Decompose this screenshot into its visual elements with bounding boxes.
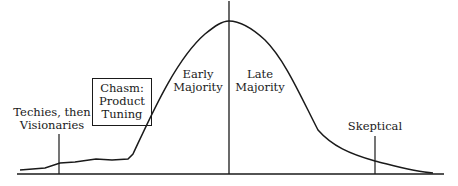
late-majority-label-line-2: Majority: [232, 81, 288, 94]
early-majority-label: Early Majority: [170, 68, 226, 94]
skeptical-label: Skeptical: [345, 120, 405, 133]
skeptical-label-line-1: Skeptical: [345, 120, 405, 133]
early-majority-label-line-2: Majority: [170, 81, 226, 94]
techies-label-line-2: Visionaries: [4, 119, 100, 132]
techies-label: Techies, then Visionaries: [4, 106, 100, 132]
chasm-label-line-3: Tuning: [92, 108, 152, 121]
late-majority-label: Late Majority: [232, 68, 288, 94]
adoption-curve-graphic: [0, 0, 458, 186]
adoption-curve-diagram: Chasm: Product Tuning Techies, then Visi…: [0, 0, 458, 186]
chasm-label: Chasm: Product Tuning: [92, 82, 152, 121]
adoption-curve: [20, 21, 433, 173]
